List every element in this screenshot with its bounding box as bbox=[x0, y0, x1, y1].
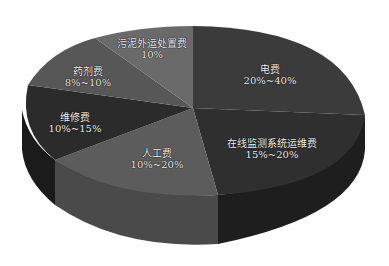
label-name: 药剂费 bbox=[65, 66, 111, 77]
label-pct: 20%~40% bbox=[244, 75, 297, 86]
label-chemicals: 药剂费 8%~10% bbox=[65, 66, 111, 88]
label-repair: 维修费 10%~15% bbox=[49, 112, 102, 134]
pie-top bbox=[26, 26, 365, 196]
label-pct: 10% bbox=[117, 49, 187, 60]
label-name: 在线监测系统运维费 bbox=[227, 138, 317, 149]
label-sludge: 污泥外运处置费 10% bbox=[117, 38, 187, 60]
label-name: 人工费 bbox=[131, 148, 184, 159]
label-name: 污泥外运处置费 bbox=[117, 38, 187, 49]
label-pct: 10%~20% bbox=[131, 159, 184, 170]
label-pct: 10%~15% bbox=[49, 123, 102, 134]
label-pct: 8%~10% bbox=[65, 77, 111, 88]
label-electricity: 电费 20%~40% bbox=[244, 64, 297, 86]
label-name: 电费 bbox=[244, 64, 297, 75]
label-labor: 人工费 10%~20% bbox=[131, 148, 184, 170]
label-online-monitoring: 在线监测系统运维费 15%~20% bbox=[227, 138, 317, 160]
label-name: 维修费 bbox=[49, 112, 102, 123]
label-pct: 15%~20% bbox=[227, 149, 317, 160]
